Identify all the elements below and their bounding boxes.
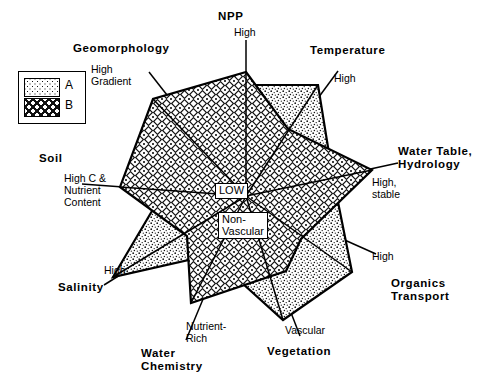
legend-swatch-a — [24, 78, 60, 97]
axis-title-water-table: Water Table, Hydrology — [398, 145, 472, 171]
axis-title-temperature: Temperature — [310, 44, 385, 57]
axis-title-organics: Organics Transport — [391, 277, 449, 303]
axis-sub-water-table: High, stable — [372, 176, 400, 200]
axis-sub-organics: High — [372, 250, 394, 262]
axis-sub-soil: High C & Nutrient Content — [64, 172, 106, 208]
axis-sub-temperature: High — [334, 72, 356, 84]
axis-sub-npp: High — [234, 26, 256, 38]
axis-sub-salinity: High — [104, 264, 126, 276]
axis-sub-vegetation: Vascular — [285, 324, 325, 336]
axis-sub-water-chemistry: Nutrient- Rich — [186, 320, 226, 344]
axis-title-npp: NPP — [218, 10, 243, 23]
axis-title-vegetation: Vegetation — [267, 345, 331, 358]
center-label-low: LOW — [215, 183, 248, 199]
axis-title-geomorphology: Geomorphology — [73, 42, 170, 55]
axis-title-water-chemistry: Water Chemistry — [141, 347, 203, 373]
axis-title-soil: Soil — [39, 152, 63, 165]
legend: A B — [18, 71, 86, 124]
radar-chart: A B LOW Non- Vascular NPP High Temperatu… — [0, 0, 482, 392]
legend-label-b: B — [65, 98, 73, 112]
legend-swatch-b — [24, 98, 60, 117]
center-label-non-vascular: Non- Vascular — [218, 212, 268, 239]
axis-title-salinity: Salinity — [58, 281, 104, 294]
axis-sub-geomorphology: High Gradient — [91, 63, 131, 87]
legend-label-a: A — [65, 78, 73, 92]
